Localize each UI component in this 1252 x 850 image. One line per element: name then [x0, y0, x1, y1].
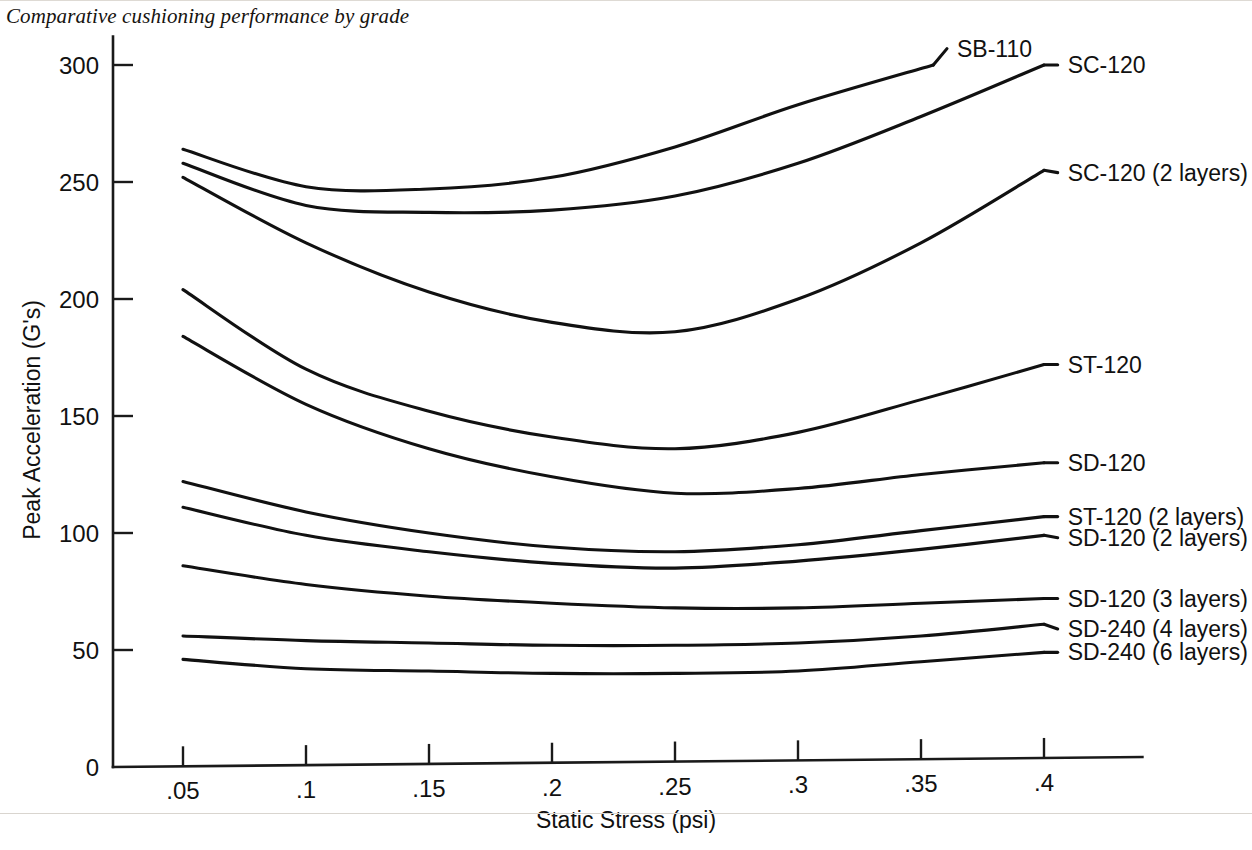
- series-label: SD-120 (3 layers): [1068, 586, 1248, 612]
- series-curve: [183, 566, 1044, 609]
- series-label: SD-240 (6 layers): [1068, 639, 1248, 665]
- series-label: SD-120 (2 layers): [1068, 525, 1248, 551]
- series-curve: [183, 170, 1044, 333]
- series-label: SC-120: [1068, 52, 1146, 78]
- series-label: ST-120: [1068, 352, 1142, 378]
- series-labels-group: SB-110SC-120SC-120 (2 layers)ST-120SD-12…: [957, 36, 1248, 666]
- x-axis-line: [113, 757, 1142, 767]
- series-curve: [183, 507, 1044, 568]
- y-tick-label: 0: [86, 754, 99, 781]
- cushioning-performance-line-chart: 050100150200250300 .05.1.15.2.25.3.35.4 …: [0, 0, 1252, 850]
- series-label-leader: [933, 49, 947, 65]
- y-tick-label: 150: [59, 403, 99, 430]
- series-label-leader: [1044, 535, 1058, 537]
- y-tick-labels: 050100150200250300: [59, 52, 99, 781]
- series-curve: [183, 65, 933, 191]
- series-curve: [183, 482, 1044, 552]
- x-tick-label: .2: [542, 774, 562, 801]
- x-tick-label: .05: [166, 777, 199, 804]
- series-label-leader: [1044, 170, 1058, 172]
- y-tick-label: 250: [59, 169, 99, 196]
- x-axis-title: Static Stress (psi): [536, 807, 716, 833]
- series-label: SD-120: [1068, 450, 1146, 476]
- series-label: SC-120 (2 layers): [1068, 160, 1248, 186]
- curves-group: [183, 65, 1044, 674]
- series-curve: [183, 652, 1044, 673]
- x-tick-labels: .05.1.15.2.25.3.35.4: [166, 769, 1054, 804]
- label-leader-lines: [933, 49, 1057, 653]
- x-tick-label: .25: [658, 773, 691, 800]
- series-curve: [183, 336, 1044, 493]
- x-tick-label: .3: [788, 771, 808, 798]
- series-label-leader: [1044, 624, 1058, 629]
- y-tick-label: 200: [59, 286, 99, 313]
- x-tick-label: .35: [904, 770, 937, 797]
- x-tick-label: .15: [412, 775, 445, 802]
- y-tick-label: 300: [59, 52, 99, 79]
- series-label: SD-240 (4 layers): [1068, 616, 1248, 642]
- x-tick-label: .4: [1034, 769, 1054, 796]
- page-edge-bottom: [0, 813, 1252, 814]
- series-curve: [183, 624, 1044, 645]
- y-tick-label: 50: [72, 637, 99, 664]
- x-tick-label: .1: [296, 776, 316, 803]
- figure-container: Comparative cushioning performance by gr…: [0, 0, 1252, 850]
- y-axis-title: Peak Acceleration (G's): [19, 300, 45, 540]
- tick-marks-group: [113, 65, 1044, 766]
- series-curve: [183, 65, 1044, 213]
- series-curve: [183, 290, 1044, 449]
- series-label: SB-110: [957, 36, 1032, 62]
- y-tick-label: 100: [59, 520, 99, 547]
